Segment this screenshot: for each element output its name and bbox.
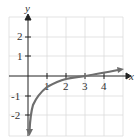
svg-text:2: 2 [17,30,23,42]
svg-text:1: 1 [17,50,23,62]
svg-text:-2: -2 [11,109,20,121]
svg-text:4: 4 [101,80,107,92]
axes [9,14,131,136]
curve-start-arrow-icon [26,129,33,136]
svg-text:3: 3 [82,80,88,92]
svg-text:x: x [128,70,134,82]
svg-text:2: 2 [63,80,69,92]
svg-text:y: y [24,2,30,14]
svg-text:-1: -1 [11,90,20,102]
log-graph: 1 2 3 4 2 1 -1 -2 y x [0,0,136,138]
